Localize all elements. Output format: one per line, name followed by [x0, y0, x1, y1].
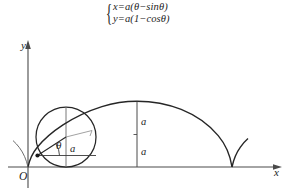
parametric-equations: { x=a(θ−sinθ) y=a(1−cosθ) — [103, 1, 170, 26]
cycloid-figure: { x=a(θ−sinθ) y=a(1−cosθ) y x O θ a a a — [0, 0, 290, 196]
cycloid-diagram — [0, 0, 290, 196]
previous-arch-tail — [13, 141, 28, 167]
height-a-upper-label: a — [141, 116, 146, 127]
cycloid-arch — [28, 101, 232, 167]
generating-point — [35, 153, 39, 157]
equation-y: y=a(1−cosθ) — [113, 14, 170, 25]
radius-to-generating-point — [38, 137, 67, 156]
x-axis — [8, 164, 282, 170]
equation-lines: x=a(θ−sinθ) y=a(1−cosθ) — [113, 2, 170, 24]
theta-label: θ — [56, 139, 61, 151]
next-arch-cusp — [232, 139, 248, 167]
equation-x: x=a(θ−sinθ) — [113, 2, 170, 13]
y-axis-label: y — [21, 39, 26, 51]
angle-reference-line — [66, 131, 92, 138]
angle-reference-tick — [90, 131, 92, 137]
origin-label: O — [19, 170, 27, 182]
x-axis-label: x — [274, 166, 279, 178]
equation-brace: { — [106, 0, 113, 26]
height-a-lower-label: a — [141, 146, 146, 157]
radius-a-label: a — [70, 143, 75, 154]
